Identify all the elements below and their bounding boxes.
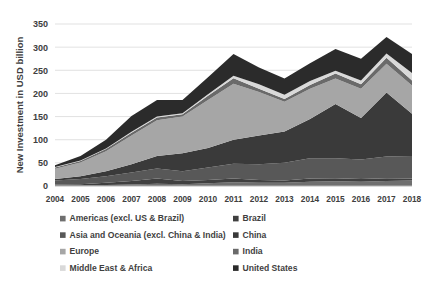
chart-container: 050100150200250300350 200420052006200720… xyxy=(0,0,434,295)
legend-group: Americas (excl. US & Brazil)BrazilAsia a… xyxy=(60,213,298,273)
y-axis-tick-label: 0 xyxy=(43,181,48,191)
legend-item[interactable]: China xyxy=(233,230,267,240)
legend-swatch-icon xyxy=(233,265,239,271)
x-axis-tick-label: 2007 xyxy=(122,194,141,204)
legend-swatch-icon xyxy=(233,249,239,255)
legend-item-label: Americas (excl. US & Brazil) xyxy=(70,213,185,223)
legend-swatch-icon xyxy=(60,265,66,271)
y-axis-title-group: New Investment in USD billion xyxy=(14,36,25,173)
y-axis-tick-label: 250 xyxy=(33,66,48,76)
x-axis-tick-label: 2004 xyxy=(46,194,65,204)
legend-item[interactable]: Americas (excl. US & Brazil) xyxy=(60,213,184,223)
legend-item-label: United States xyxy=(243,263,298,273)
y-axis-title: New Investment in USD billion xyxy=(14,36,25,173)
y-axis-tick-label: 300 xyxy=(33,43,48,53)
x-axis-tick-label: 2005 xyxy=(71,194,90,204)
x-axis-tick-label: 2011 xyxy=(225,194,243,204)
y-axis-tick-label: 100 xyxy=(33,135,48,145)
legend-swatch-icon xyxy=(233,232,239,238)
y-axis-tick-label: 350 xyxy=(33,19,48,29)
areas-group xyxy=(55,37,412,186)
x-axis-tick-label: 2017 xyxy=(377,194,396,204)
x-axis-tick-label: 2006 xyxy=(97,194,116,204)
legend-item[interactable]: India xyxy=(233,246,263,256)
x-axis-tick-label: 2009 xyxy=(173,194,192,204)
x-axis-tick-label: 2016 xyxy=(352,194,371,204)
x-axis-tick-label: 2015 xyxy=(326,194,345,204)
legend-item-label: Brazil xyxy=(243,213,266,223)
x-axis-tick-label: 2018 xyxy=(403,194,422,204)
legend-item[interactable]: Asia and Oceania (excl. China & India) xyxy=(60,230,226,240)
legend-item[interactable]: Europe xyxy=(60,246,99,256)
legend-item[interactable]: United States xyxy=(233,263,298,273)
x-axis-tick-label: 2012 xyxy=(250,194,269,204)
stacked-area-chart: 050100150200250300350 200420052006200720… xyxy=(0,0,434,295)
legend-item-label: China xyxy=(243,230,267,240)
x-axis-tick-label: 2014 xyxy=(301,194,320,204)
legend-swatch-icon xyxy=(60,249,66,255)
legend-item[interactable]: Middle East & Africa xyxy=(60,263,152,273)
x-axis-tick-label: 2008 xyxy=(148,194,167,204)
legend-swatch-icon xyxy=(60,216,66,222)
legend-item-label: Asia and Oceania (excl. China & India) xyxy=(70,230,226,240)
y-axis-tick-label: 150 xyxy=(33,112,48,122)
x-axis-ticks-group: 2004200520062007200820092010201120122013… xyxy=(46,194,422,204)
y-axis-tick-label: 200 xyxy=(33,89,48,99)
legend-item-label: Middle East & Africa xyxy=(70,263,153,273)
y-axis-ticks-group: 050100150200250300350 xyxy=(33,19,48,191)
legend-item[interactable]: Brazil xyxy=(233,213,266,223)
legend-swatch-icon xyxy=(60,232,66,238)
legend-item-label: Europe xyxy=(70,246,100,256)
legend-item-label: India xyxy=(243,246,263,256)
y-axis-tick-label: 50 xyxy=(38,158,48,168)
x-axis-tick-label: 2010 xyxy=(199,194,218,204)
legend-swatch-icon xyxy=(233,216,239,222)
x-axis-tick-label: 2013 xyxy=(275,194,294,204)
